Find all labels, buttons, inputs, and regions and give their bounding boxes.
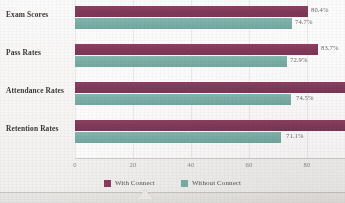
footer-strip [0, 192, 345, 203]
legend-item-with-connect[interactable]: With Connect [104, 179, 155, 187]
legend-label-with-connect: With Connect [115, 179, 155, 187]
x-tick-80: 80 [304, 161, 311, 168]
bar-with-connect-attendance-rates[interactable] [75, 82, 345, 93]
legend-label-without-connect: Without Connect [192, 179, 241, 187]
value-label-with-connect-exam-scores: 80.4% [311, 6, 329, 13]
value-label-without-connect-exam-scores: 74.7% [295, 18, 313, 25]
category-label-exam-scores: Exam Scores [6, 10, 48, 19]
category-label-pass-rates: Pass Rates [6, 48, 41, 57]
caret-up-icon [137, 189, 153, 199]
x-tick-0: 0 [73, 161, 76, 168]
bar-with-connect-exam-scores[interactable] [75, 6, 308, 17]
value-label-with-connect-pass-rates: 83.7% [321, 44, 339, 51]
value-label-without-connect-attendance-rates: 74.5% [296, 94, 314, 101]
legend-swatch-icon-with-connect [104, 180, 111, 187]
category-label-attendance-rates: Attendance Rates [6, 86, 64, 95]
legend-item-without-connect[interactable]: Without Connect [181, 179, 241, 187]
bar-without-connect-exam-scores[interactable] [75, 18, 292, 29]
category-label-retention-rates: Retention Rates [6, 124, 59, 133]
chart-legend: With Connect Without Connect [0, 176, 345, 190]
x-tick-20: 20 [130, 161, 137, 168]
chart-container: Exam Scores 80.4% 74.7% Pass Rates 83.7%… [0, 0, 345, 203]
bar-with-connect-pass-rates[interactable] [75, 44, 318, 55]
bar-without-connect-retention-rates[interactable] [75, 132, 281, 143]
bar-without-connect-pass-rates[interactable] [75, 56, 287, 67]
x-tick-60: 60 [246, 161, 253, 168]
x-axis-line [75, 158, 345, 159]
bar-without-connect-attendance-rates[interactable] [75, 94, 291, 105]
value-label-without-connect-retention-rates: 71.1% [286, 132, 304, 139]
legend-swatch-icon-without-connect [181, 180, 188, 187]
value-label-without-connect-pass-rates: 72.9% [290, 56, 308, 63]
x-tick-40: 40 [188, 161, 195, 168]
bar-with-connect-retention-rates[interactable] [75, 120, 345, 131]
